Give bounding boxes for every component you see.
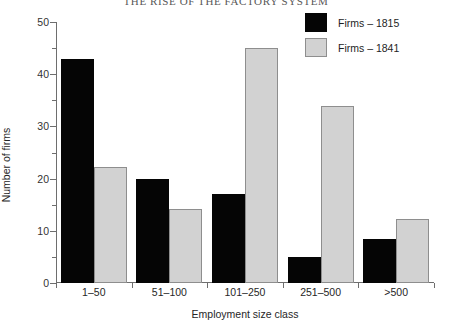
y-tick-label: 0 (43, 277, 49, 289)
x-tick-label: >500 (358, 286, 434, 298)
y-tick-minor (52, 153, 56, 154)
chart-legend: Firms – 1815 Firms – 1841 (305, 10, 399, 60)
y-tick-major (50, 126, 56, 127)
y-tick-major (50, 74, 56, 75)
y-tick-minor (52, 100, 56, 101)
chart-title: THE RISE OF THE FACTORY SYSTEM (0, 0, 452, 6)
bar-1815 (212, 194, 245, 283)
y-tick-label: 20 (37, 173, 49, 185)
bar-chart-figure: THE RISE OF THE FACTORY SYSTEM Number of… (0, 0, 452, 329)
x-tick (358, 283, 359, 288)
y-tick-minor (52, 205, 56, 206)
bar-1841 (169, 209, 202, 283)
legend-swatch-icon-1815 (305, 13, 327, 32)
x-tick (132, 283, 133, 288)
y-tick-major (50, 22, 56, 23)
x-tick-label: 51–100 (132, 286, 208, 298)
x-tick (56, 283, 57, 288)
bar-1815 (363, 239, 396, 283)
y-tick-label: 10 (37, 225, 49, 237)
legend-swatch-icon-1841 (305, 38, 327, 57)
bar-1815 (288, 257, 321, 283)
plot-area: 01020304050 1–5051–100101–250251–500>500 (56, 22, 434, 283)
bar-1815 (61, 59, 94, 283)
legend-label-1841: Firms – 1841 (338, 42, 399, 54)
x-tick (283, 283, 284, 288)
bar-1841 (94, 167, 127, 283)
x-tick-label: 251–500 (283, 286, 359, 298)
y-tick-label: 40 (37, 68, 49, 80)
y-tick-major (50, 231, 56, 232)
y-tick-minor (52, 257, 56, 258)
y-tick-label: 30 (37, 120, 49, 132)
bar-1841 (396, 219, 429, 283)
y-tick-minor (52, 48, 56, 49)
y-axis-line (56, 22, 57, 283)
x-tick-label: 101–250 (207, 286, 283, 298)
x-tick-label: 1–50 (56, 286, 132, 298)
bar-1815 (136, 179, 169, 283)
x-tick (434, 283, 435, 288)
y-tick-label: 50 (37, 16, 49, 28)
y-axis-label: Number of firms (0, 127, 12, 202)
legend-item-1815: Firms – 1815 (305, 10, 399, 35)
legend-label-1815: Firms – 1815 (338, 17, 399, 29)
bar-1841 (321, 106, 354, 283)
y-tick-major (50, 179, 56, 180)
x-axis-label: Employment size class (56, 308, 434, 320)
legend-item-1841: Firms – 1841 (305, 35, 399, 60)
bar-1841 (245, 48, 278, 283)
x-tick (207, 283, 208, 288)
